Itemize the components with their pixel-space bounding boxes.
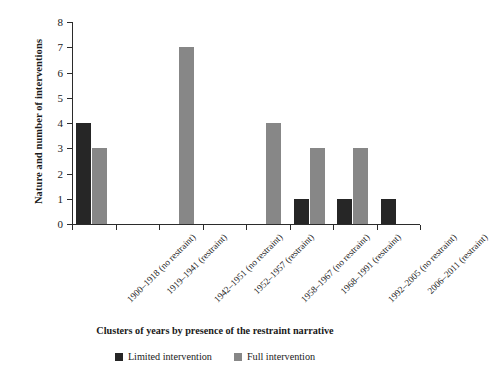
y-tick-label: 6 <box>58 65 64 81</box>
bar-group <box>377 22 421 224</box>
x-tick-mark <box>377 225 378 230</box>
y-axis-title: Nature and number of interventions <box>33 22 44 222</box>
y-tick-label: 7 <box>58 39 64 55</box>
bar <box>266 123 281 224</box>
bar <box>353 148 368 224</box>
legend-swatch-icon <box>115 353 123 361</box>
bar-group <box>116 22 160 224</box>
bar <box>337 199 352 224</box>
bar-group <box>290 22 334 224</box>
bar <box>381 199 396 224</box>
y-tick-label: 4 <box>58 115 64 131</box>
x-tick-mark <box>116 225 117 230</box>
y-tick-label: 8 <box>58 14 64 30</box>
legend-swatch-icon <box>234 353 242 361</box>
x-tick-mark <box>290 225 291 230</box>
legend-item[interactable]: Full intervention <box>234 351 315 362</box>
x-tick-mark <box>72 225 73 230</box>
x-tick-label: 1968–1991 (restraint) <box>339 232 403 296</box>
legend-label: Full intervention <box>247 351 315 362</box>
legend-item[interactable]: Limited intervention <box>115 351 212 362</box>
bar-group <box>203 22 247 224</box>
bar-group <box>246 22 290 224</box>
x-tick-label: 1919–1941 (restraint) <box>165 232 229 296</box>
x-tick-label: 1952–1957 (restraint) <box>252 232 316 296</box>
y-tick-label: 2 <box>58 166 64 182</box>
bar <box>179 47 194 224</box>
bar <box>76 123 91 224</box>
bar <box>310 148 325 224</box>
bar <box>294 199 309 224</box>
bar <box>92 148 107 224</box>
y-tick-label: 0 <box>58 216 64 232</box>
x-tick-mark <box>246 225 247 230</box>
y-tick-label: 3 <box>58 140 64 156</box>
x-tick-label: 2006–2011 (restraint) <box>426 232 490 296</box>
chart-legend: Limited interventionFull intervention <box>0 351 430 362</box>
y-tick-label: 5 <box>58 90 64 106</box>
bar-group <box>72 22 116 224</box>
x-axis-title: Clusters of years by presence of the res… <box>0 325 430 336</box>
x-tick-mark <box>333 225 334 230</box>
bar-group <box>333 22 377 224</box>
y-tick-label: 1 <box>58 191 64 207</box>
x-tick-mark <box>203 225 204 230</box>
plot-area: 012345678 <box>72 22 420 225</box>
x-tick-mark <box>159 225 160 230</box>
bar-group <box>159 22 203 224</box>
x-tick-mark <box>420 225 421 230</box>
legend-label: Limited intervention <box>128 351 212 362</box>
